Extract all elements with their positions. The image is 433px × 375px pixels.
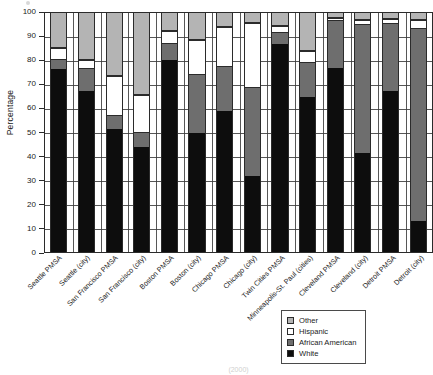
bar-segment-african-american [51, 60, 66, 70]
bar-segment-other [411, 13, 426, 20]
bar-segment-white [51, 69, 66, 252]
bar-segment-african-american [245, 88, 260, 175]
bar-segment-white [245, 176, 260, 252]
bar-slot [377, 13, 405, 252]
bar-segment-african-american [79, 69, 94, 91]
y-tick-label: 100 [23, 8, 36, 16]
bar-segment-other [79, 13, 94, 60]
bar-segment-hispanic [79, 60, 94, 70]
bar-slot [45, 13, 73, 252]
legend-item[interactable]: Hispanic [287, 326, 356, 337]
stacked-bar[interactable] [161, 13, 178, 252]
legend-item[interactable]: African American [287, 337, 356, 348]
bar-series-container [45, 13, 432, 252]
y-tick-label: 10 [27, 225, 36, 233]
bar-segment-hispanic [411, 20, 426, 28]
bar-slot [404, 13, 432, 252]
x-axis-label: San Francisco PMSA [66, 254, 120, 308]
y-tick-label: 50 [27, 129, 36, 137]
stacked-bar[interactable] [50, 13, 67, 252]
stacked-bar[interactable] [299, 13, 316, 252]
y-tick-label: 0 [32, 249, 36, 257]
stacked-bar[interactable] [244, 13, 261, 252]
bar-segment-white [217, 111, 232, 252]
y-tick-label: 70 [27, 80, 36, 88]
y-axis-title: Percentage [6, 70, 15, 156]
x-axis-labels: Seattle PMSASeattle (city)San Francisco … [44, 254, 433, 350]
legend-item[interactable]: White [287, 348, 356, 359]
stacked-bar[interactable] [188, 13, 205, 252]
bar-segment-african-american [162, 44, 177, 60]
other-swatch [287, 317, 294, 324]
legend-label: White [299, 349, 318, 358]
bar-segment-other [189, 13, 204, 40]
bar-segment-hispanic [245, 23, 260, 89]
bar-segment-white [189, 133, 204, 253]
bar-slot [128, 13, 156, 252]
legend: OtherHispanicAfrican AmericanWhite [281, 310, 366, 364]
bar-segment-white [272, 44, 287, 252]
bar-segment-hispanic [51, 48, 66, 60]
legend-label: Hispanic [299, 327, 328, 336]
y-tick-label: 30 [27, 177, 36, 185]
bar-segment-african-american [107, 116, 122, 129]
y-tick-label: 90 [27, 32, 36, 40]
bar-segment-white [328, 68, 343, 252]
bar-segment-other [134, 13, 149, 95]
bar-segment-other [107, 13, 122, 76]
bar-slot [321, 13, 349, 252]
bar-segment-african-american [217, 67, 232, 111]
hispanic-swatch [287, 328, 294, 335]
bar-slot [156, 13, 184, 252]
bar-segment-hispanic [162, 31, 177, 44]
y-tick-label: 60 [27, 104, 36, 112]
african-american-swatch [287, 339, 294, 346]
bar-segment-african-american [355, 25, 370, 153]
legend-item[interactable]: Other [287, 315, 356, 326]
bar-segment-white [411, 221, 426, 252]
stacked-bar[interactable] [133, 13, 150, 252]
bar-slot [100, 13, 128, 252]
bar-segment-african-american [300, 63, 315, 96]
stacked-bar[interactable] [382, 13, 399, 252]
stacked-bar[interactable] [216, 13, 233, 252]
legend-label: Other [299, 316, 318, 325]
bar-segment-white [134, 147, 149, 252]
bar-segment-other [272, 13, 287, 26]
stacked-bar[interactable] [354, 13, 371, 252]
bar-segment-white [162, 60, 177, 252]
bar-segment-other [217, 13, 232, 27]
bar-slot [294, 13, 322, 252]
stacked-bar[interactable] [106, 13, 123, 252]
bar-segment-other [355, 13, 370, 20]
stacked-bar[interactable] [327, 13, 344, 252]
bar-segment-african-american [272, 33, 287, 44]
bar-segment-african-american [134, 133, 149, 147]
bar-slot [73, 13, 101, 252]
bar-slot [183, 13, 211, 252]
bar-segment-hispanic [134, 95, 149, 132]
bar-slot [349, 13, 377, 252]
bar-segment-white [107, 129, 122, 252]
legend-label: African American [299, 338, 356, 347]
bar-segment-other [51, 13, 66, 48]
bar-slot [266, 13, 294, 252]
stacked-bar[interactable] [78, 13, 95, 252]
bar-segment-hispanic [107, 76, 122, 115]
bar-segment-hispanic [300, 51, 315, 63]
bar-segment-white [79, 91, 94, 252]
stacked-bar[interactable] [271, 13, 288, 252]
stacked-bar-chart: Percentage 0102030405060708090100 Seattl… [0, 0, 433, 375]
bar-segment-hispanic [189, 40, 204, 75]
stacked-bar[interactable] [410, 13, 427, 252]
bar-segment-other [162, 13, 177, 31]
bar-segment-african-american [383, 24, 398, 91]
bar-segment-african-american [189, 75, 204, 132]
y-tick-label: 20 [27, 201, 36, 209]
bar-segment-african-american [411, 29, 426, 221]
bar-segment-other [300, 13, 315, 51]
y-tick-label: 80 [27, 56, 36, 64]
bar-segment-african-american [328, 21, 343, 68]
bar-segment-other [245, 13, 260, 23]
bar-segment-white [300, 97, 315, 252]
